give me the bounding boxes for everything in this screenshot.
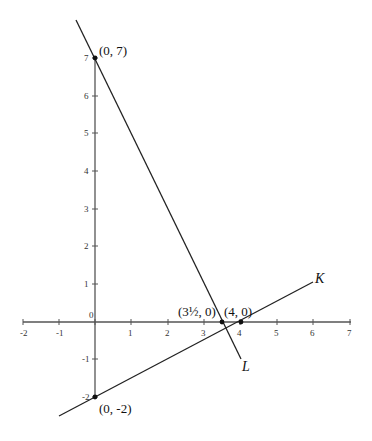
origin-label: 0 (89, 310, 94, 320)
y-tick-label: 7 (84, 53, 89, 63)
x-tick-label: 5 (274, 328, 279, 338)
x-tick-label: 6 (310, 328, 315, 338)
y-tick-label: -1 (82, 354, 90, 364)
x-tick-label: 3 (201, 328, 206, 338)
label-point-4-0: (4, 0) (224, 304, 252, 319)
label-point-0-7: (0, 7) (99, 43, 127, 58)
y-tick-label: 6 (84, 91, 89, 101)
x-tick-label: -1 (56, 328, 64, 338)
line-L (76, 20, 241, 359)
y-tick-label: 4 (84, 166, 89, 176)
point-0-neg2 (93, 395, 98, 400)
x-tick-label: -2 (20, 328, 28, 338)
label-line-K: K (314, 271, 325, 286)
x-tick-label: 7 (347, 328, 352, 338)
y-tick-label: 5 (84, 128, 89, 138)
x-tick-label: 1 (128, 328, 133, 338)
y-tick-label: 1 (84, 279, 89, 289)
y-tick-label: 2 (84, 241, 89, 251)
x-tick-label: 4 (237, 328, 242, 338)
label-line-L: L (241, 359, 250, 374)
diagram-svg: -2-11234567 7654321-1-2 0 (0, 7) (0, -2)… (0, 0, 372, 441)
point-4-0 (239, 320, 244, 325)
point-3half-0 (220, 320, 225, 325)
y-tick-label: 3 (84, 204, 89, 214)
label-point-3half-0: (3½, 0) (178, 304, 216, 319)
label-point-0-neg2: (0, -2) (99, 401, 132, 416)
coordinate-diagram: -2-11234567 7654321-1-2 0 (0, 7) (0, -2)… (0, 0, 372, 441)
x-tick-label: 2 (165, 328, 170, 338)
point-0-7 (93, 56, 98, 61)
